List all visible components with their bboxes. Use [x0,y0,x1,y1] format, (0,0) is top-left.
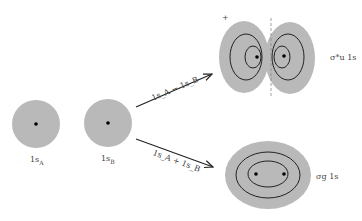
label-sigma-g: σg 1s [316,172,338,181]
label-1sA: 1sA [30,155,44,166]
nucleus-dot-icon [106,121,110,125]
bonding-orbital [225,141,311,209]
antibonding-orbital [219,18,315,98]
sign-plus: + [222,13,229,22]
atomic-orbital-1sB [84,99,132,147]
label-sigma-u-star: σ*u 1s [330,53,356,62]
atomic-orbital-1sA [12,100,60,148]
nucleus-dot-icon [34,122,38,126]
label-1sB: 1sB [101,154,115,165]
mo-diagram [0,0,362,221]
